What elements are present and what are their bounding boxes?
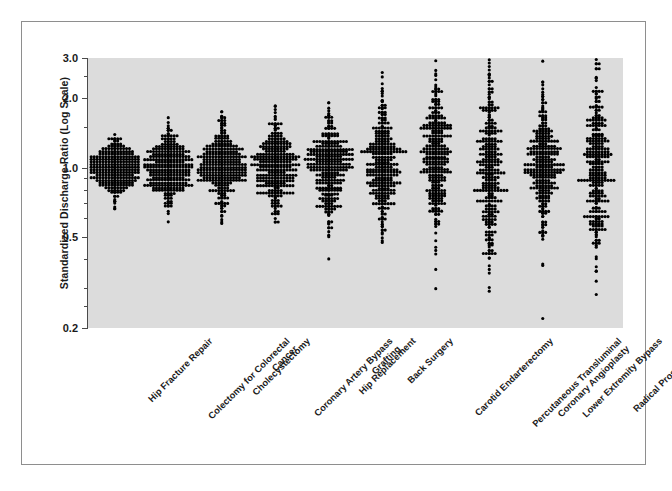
data-point xyxy=(485,223,488,226)
data-point xyxy=(327,116,330,119)
data-point xyxy=(428,194,431,197)
data-point xyxy=(107,153,110,156)
data-point xyxy=(541,192,544,195)
data-point xyxy=(113,207,116,210)
data-point xyxy=(378,166,381,169)
data-point xyxy=(158,184,161,187)
data-point xyxy=(482,109,485,112)
data-point xyxy=(428,202,431,205)
data-point xyxy=(137,171,140,174)
data-point xyxy=(110,176,113,179)
data-point xyxy=(544,110,547,113)
data-point xyxy=(214,171,217,174)
y-tick-minor xyxy=(84,203,88,204)
data-point xyxy=(285,147,288,150)
data-point xyxy=(324,202,327,205)
data-point xyxy=(604,228,607,231)
data-point xyxy=(164,202,167,205)
data-point xyxy=(488,110,491,113)
data-point xyxy=(274,202,277,205)
data-point xyxy=(497,160,500,163)
data-point xyxy=(595,210,598,213)
data-point xyxy=(375,171,378,174)
data-point xyxy=(598,162,601,165)
data-point xyxy=(262,176,265,179)
data-point xyxy=(381,113,384,116)
data-point xyxy=(178,171,181,174)
data-point xyxy=(595,128,598,131)
data-point xyxy=(277,194,280,197)
data-point xyxy=(312,140,315,143)
data-point xyxy=(550,160,553,163)
data-point xyxy=(110,137,113,140)
data-point xyxy=(541,199,544,202)
data-point xyxy=(283,137,286,140)
data-point xyxy=(431,170,434,173)
data-point xyxy=(351,158,354,161)
data-point xyxy=(381,179,384,182)
data-point xyxy=(214,163,217,166)
data-point xyxy=(339,181,342,184)
data-point xyxy=(291,179,294,182)
data-point xyxy=(592,228,595,231)
data-point xyxy=(595,228,598,231)
data-point xyxy=(538,181,541,184)
data-point xyxy=(146,166,149,169)
data-point xyxy=(544,122,547,125)
data-point xyxy=(598,128,601,131)
data-point xyxy=(321,176,324,179)
data-point xyxy=(324,150,327,153)
x-axis-label-line: Carotid Endarterectomy xyxy=(473,336,556,419)
data-point xyxy=(387,197,390,200)
data-point xyxy=(592,106,595,109)
data-point xyxy=(395,150,398,153)
data-point xyxy=(294,158,297,161)
data-point xyxy=(601,162,604,165)
data-point xyxy=(310,168,313,171)
data-point xyxy=(280,122,283,125)
data-point xyxy=(336,155,339,158)
data-point xyxy=(342,179,345,182)
data-point xyxy=(428,140,431,143)
data-point xyxy=(268,142,271,145)
data-point xyxy=(155,174,158,177)
data-point xyxy=(217,147,220,150)
beeswarm-points-layer xyxy=(88,58,623,328)
data-point xyxy=(327,109,330,112)
data-point xyxy=(440,202,443,205)
data-point xyxy=(526,163,529,166)
data-point xyxy=(256,184,259,187)
data-point xyxy=(327,160,330,163)
data-point xyxy=(595,155,598,158)
data-point xyxy=(425,116,428,119)
data-point xyxy=(110,153,113,156)
data-point xyxy=(318,145,321,148)
data-point xyxy=(541,60,544,63)
data-point xyxy=(595,111,598,114)
data-point xyxy=(256,179,259,182)
y-tick-label: 3.0 xyxy=(63,52,78,64)
data-point xyxy=(119,191,122,194)
data-point xyxy=(173,192,176,195)
data-point xyxy=(538,199,541,202)
data-point xyxy=(375,189,378,192)
data-point xyxy=(131,173,134,176)
data-point xyxy=(173,150,176,153)
data-point xyxy=(324,142,327,145)
data-point xyxy=(164,204,167,207)
data-point xyxy=(226,171,229,174)
data-point xyxy=(553,181,556,184)
data-point xyxy=(280,192,283,195)
data-point xyxy=(598,62,601,65)
data-point xyxy=(387,171,390,174)
data-point xyxy=(280,137,283,140)
data-point xyxy=(134,166,137,169)
data-point xyxy=(488,83,491,86)
data-point xyxy=(476,199,479,202)
data-point xyxy=(384,189,387,192)
data-point xyxy=(110,163,113,166)
data-point xyxy=(535,147,538,150)
data-point xyxy=(541,110,544,113)
data-point xyxy=(541,235,544,238)
data-point xyxy=(187,178,190,181)
